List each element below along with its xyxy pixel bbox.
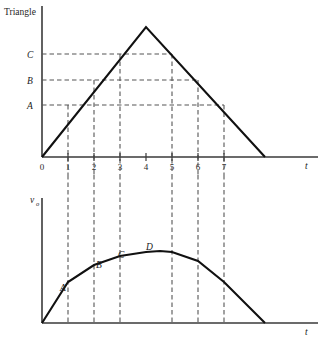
tick-label-1: 1 — [66, 162, 71, 172]
tick-label-4: 4 — [144, 162, 149, 172]
tick-label-0: 0 — [40, 162, 45, 172]
bottom-y-axis-label: v — [30, 195, 35, 205]
waveform-figure: Triangle C B A — [0, 0, 325, 344]
bottom-point-label-A: A — [59, 283, 66, 293]
top-level-label-B: B — [27, 76, 33, 86]
bottom-y-axis-label-subscript: o — [36, 200, 40, 207]
tick-label-5: 5 — [170, 162, 175, 172]
triangle-waveform — [42, 27, 265, 157]
top-x-axis-label: t — [305, 161, 308, 171]
tick-label-2: 2 — [92, 162, 97, 172]
bottom-point-label-C: C — [118, 250, 125, 260]
top-panel: Triangle C B A — [4, 6, 318, 175]
tick-label-3: 3 — [118, 162, 123, 172]
bottom-point-label-D: D — [145, 242, 153, 252]
tick-label-7: 7 — [222, 162, 227, 172]
bottom-x-axis-label: t — [305, 327, 308, 337]
tick-label-6: 6 — [196, 162, 201, 172]
top-level-label-A: A — [26, 101, 33, 111]
bottom-point-label-B: B — [96, 260, 102, 270]
figure-svg: Triangle C B A — [0, 0, 325, 344]
top-panel-title: Triangle — [4, 7, 36, 17]
output-waveform — [42, 251, 265, 323]
bottom-panel: v o A B C D t — [30, 175, 318, 337]
top-level-label-C: C — [27, 50, 34, 60]
